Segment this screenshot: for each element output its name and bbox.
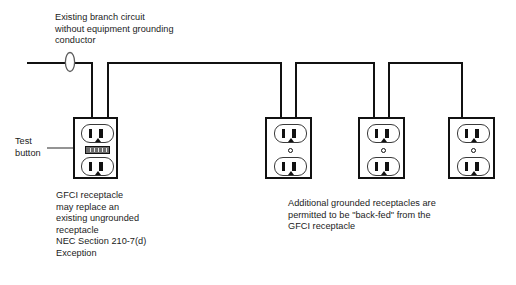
neutral-slot — [89, 129, 92, 138]
neutral-slot — [89, 162, 92, 171]
hot-slot — [475, 129, 479, 138]
ground-pin-icon — [381, 171, 387, 175]
hot-slot — [99, 162, 103, 171]
neutral-slot — [282, 162, 285, 171]
ground-pin-icon — [95, 138, 101, 142]
hot-slot — [475, 162, 479, 171]
neutral-slot — [375, 129, 378, 138]
hot-slot — [99, 129, 103, 138]
ground-pin-icon — [288, 171, 294, 175]
hot-slot — [292, 162, 296, 171]
ground-pin-icon — [381, 138, 387, 142]
hot-slot — [385, 162, 389, 171]
grounded-receptacle-3[interactable] — [448, 117, 495, 179]
neutral-slot — [465, 162, 468, 171]
branch-circuit-label: Existing branch circuit without equipmen… — [55, 12, 174, 47]
center-screw-icon — [381, 148, 386, 153]
grounded-receptacle-2[interactable] — [358, 117, 405, 179]
gfci-load-wire-top-run — [108, 63, 281, 118]
gfci-upper-outlet — [81, 124, 114, 143]
lower-outlet — [457, 157, 490, 176]
lower-outlet — [367, 157, 400, 176]
gfci-receptacle-note: GFCI receptacle may replace an existing … — [56, 190, 146, 260]
ground-pin-icon — [471, 171, 477, 175]
test-button-label: Test button — [15, 136, 41, 159]
upper-outlet — [274, 124, 307, 143]
gfci-receptacle[interactable] — [73, 117, 118, 179]
ground-pin-icon — [288, 138, 294, 142]
ground-pin-icon — [471, 138, 477, 142]
gfci-wiring-diagram: Existing branch circuit without equipmen… — [0, 0, 516, 285]
center-screw-icon — [471, 148, 476, 153]
center-screw-icon — [288, 148, 293, 153]
upper-outlet — [457, 124, 490, 143]
jumper-wire-receptacle-2-to-3 — [389, 63, 462, 117]
neutral-slot — [375, 162, 378, 171]
upper-outlet — [367, 124, 400, 143]
backfed-receptacles-note: Additional grounded receptacles are perm… — [288, 198, 436, 233]
jumper-wire-receptacle-1-to-2 — [296, 63, 374, 117]
ground-pin-icon — [95, 171, 101, 175]
wire-break-loop-icon — [65, 53, 74, 72]
grounded-receptacle-1[interactable] — [265, 117, 312, 179]
gfci-lower-outlet — [81, 157, 114, 176]
lower-outlet — [274, 157, 307, 176]
test-button[interactable] — [85, 146, 110, 154]
neutral-slot — [282, 129, 285, 138]
hot-slot — [292, 129, 296, 138]
hot-slot — [385, 129, 389, 138]
feeder-wire-to-gfci-line — [28, 63, 92, 118]
neutral-slot — [465, 129, 468, 138]
